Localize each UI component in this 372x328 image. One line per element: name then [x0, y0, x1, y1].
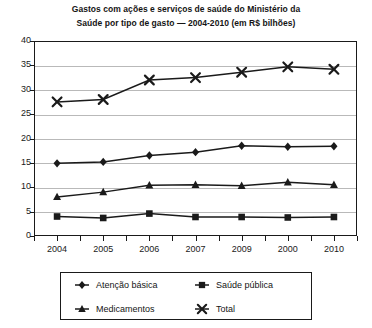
y-axis-tick-label: 20	[7, 133, 31, 143]
x-axis-tick-label: 2009	[219, 244, 265, 254]
diamond-marker-icon	[75, 279, 89, 291]
x-axis-tick-label: 2004	[34, 244, 80, 254]
gridline	[35, 115, 356, 116]
x-axis-boundary-tick	[311, 236, 312, 241]
gridline	[35, 188, 356, 189]
y-axis-tick-label: 10	[7, 181, 31, 191]
y-axis-tick-label: 5	[7, 206, 31, 216]
legend-item-label: Total	[216, 304, 235, 314]
legend-item-label: Atenção básica	[96, 280, 158, 290]
y-axis-tick-label: 35	[7, 59, 31, 69]
legend-item-sa-de-p-blica[interactable]: Saúde pública	[189, 279, 313, 291]
x-axis-tick	[196, 236, 197, 241]
x-axis-tick-label: 2007	[173, 244, 219, 254]
gridline	[35, 163, 356, 164]
x-axis-boundary-tick	[357, 236, 358, 241]
legend-item-label: Saúde pública	[216, 280, 273, 290]
chart-legend: Atenção básicaSaúde públicaMedicamentosT…	[60, 272, 312, 320]
x-axis-tick	[334, 236, 335, 241]
y-axis-tick-label: 0	[7, 230, 31, 240]
x-axis-boundary-tick	[126, 236, 127, 241]
chart-title-line-1: Gastos com ações e serviços de saúde do …	[72, 4, 300, 14]
x-axis-boundary-tick	[34, 236, 35, 241]
x-axis-tick	[57, 236, 58, 241]
chart-title: Gastos com ações e serviços de saúde do …	[0, 2, 372, 30]
legend-item-total[interactable]: Total	[189, 303, 313, 315]
x-axis-tick	[288, 236, 289, 241]
gridline	[35, 139, 356, 140]
x-axis-tick-label: 2006	[126, 244, 172, 254]
x-axis-boundary-tick	[265, 236, 266, 241]
plot-area	[34, 41, 357, 236]
x-axis-tick	[103, 236, 104, 241]
chart-title-line-2: Saúde por tipo de gasto — 2004-2010 (em …	[0, 16, 372, 30]
x-axis-tick-label: 2005	[80, 244, 126, 254]
chart-container: Gastos com ações e serviços de saúde do …	[0, 0, 372, 328]
triangle-marker-icon	[75, 303, 89, 315]
gridline	[35, 90, 356, 91]
x-axis-boundary-tick	[219, 236, 220, 241]
y-axis-tick-label: 15	[7, 157, 31, 167]
x-axis-boundary-tick	[80, 236, 81, 241]
y-axis-tick-label: 40	[7, 35, 31, 45]
x-axis-tick-label: 2010	[311, 244, 357, 254]
legend-item-label: Medicamentos	[96, 304, 155, 314]
x-axis-tick-label: 2000	[265, 244, 311, 254]
y-axis-tick-label: 30	[7, 84, 31, 94]
legend-item-aten-o-b-sica[interactable]: Atenção básica	[61, 279, 189, 291]
square-marker-icon	[195, 279, 209, 291]
x-axis-tick	[242, 236, 243, 241]
x-axis-tick	[149, 236, 150, 241]
legend-item-medicamentos[interactable]: Medicamentos	[61, 303, 189, 315]
x-axis-boundary-tick	[172, 236, 173, 241]
gridline	[35, 212, 356, 213]
gridline	[35, 66, 356, 67]
y-axis-tick-label: 25	[7, 108, 31, 118]
cross-marker-icon	[195, 303, 209, 315]
